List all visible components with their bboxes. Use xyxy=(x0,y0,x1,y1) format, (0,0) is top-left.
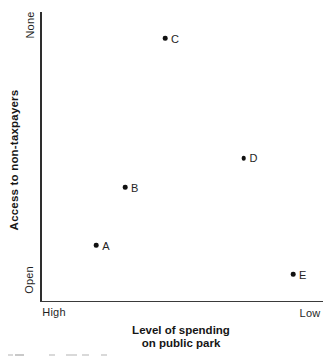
data-point-dot-c xyxy=(163,36,168,41)
scatter-plot-figure: None Open Access to non-taxpayers High L… xyxy=(0,0,336,361)
x-axis-right-tick-label: Low xyxy=(300,307,321,319)
y-axis-top-tick-label: None xyxy=(24,11,36,38)
x-axis-left-tick-label: High xyxy=(42,306,65,318)
y-axis-line xyxy=(40,12,42,302)
data-point-label-a: A xyxy=(102,240,110,252)
cropped-caption-fragment xyxy=(49,354,55,356)
cropped-caption-fragment xyxy=(15,354,24,356)
data-point-dot-a xyxy=(94,243,99,248)
cropped-caption-fragment xyxy=(82,354,89,356)
cropped-caption-fragment xyxy=(66,354,77,356)
x-axis-title: Level of spending on public park xyxy=(132,324,230,350)
data-point-label-d: D xyxy=(250,152,258,164)
data-point-label-b: B xyxy=(131,182,139,194)
data-point-label-c: C xyxy=(171,33,179,45)
data-point-dot-b xyxy=(123,185,128,190)
x-axis-title-line-2: on public park xyxy=(132,337,230,350)
y-axis-bottom-tick-label: Open xyxy=(23,266,35,294)
data-point-label-e: E xyxy=(299,269,307,281)
y-axis-title: Access to non-taxpayers xyxy=(8,90,20,231)
x-axis-line xyxy=(40,301,323,303)
cropped-caption-fragment xyxy=(8,354,13,356)
cropped-caption-fragment xyxy=(101,354,107,356)
data-point-dot-e xyxy=(291,272,296,277)
x-axis-title-line-1: Level of spending xyxy=(132,324,230,337)
data-point-dot-d xyxy=(241,156,246,161)
